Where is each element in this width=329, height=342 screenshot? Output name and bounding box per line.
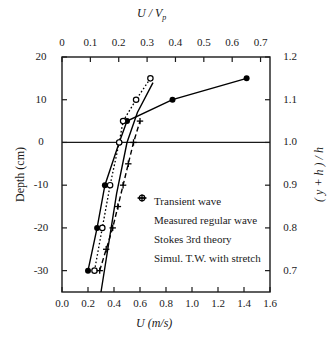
legend-label: Transient wave xyxy=(154,195,221,207)
data-point-filled xyxy=(244,75,250,81)
legend-label: Simul. T.W. with stretch xyxy=(154,252,261,264)
data-point-open xyxy=(133,97,138,102)
legend-label: Measured regular wave xyxy=(154,214,257,226)
plot-area xyxy=(0,0,329,342)
data-point-open xyxy=(92,268,97,273)
data-point-open xyxy=(100,225,105,230)
data-point-open xyxy=(120,118,125,123)
legend-label: Stokes 3rd theory xyxy=(154,233,232,245)
data-point-open xyxy=(117,140,122,145)
legend-item: Simul. T.W. with stretch xyxy=(136,248,261,267)
legend-item: Stokes 3rd theory xyxy=(136,229,261,248)
chart-legend: Transient waveMeasured regular waveStoke… xyxy=(136,191,261,267)
data-point-open xyxy=(107,182,112,187)
legend-item: Transient wave xyxy=(136,191,261,210)
figure-chart: U / Vp U / Vp 00.10.20.30.40.50.60.7 0.0… xyxy=(0,0,329,342)
data-point-filled xyxy=(170,97,176,103)
data-point-filled xyxy=(85,268,91,274)
legend-item: Measured regular wave xyxy=(136,210,261,229)
data-point-open xyxy=(148,76,153,81)
